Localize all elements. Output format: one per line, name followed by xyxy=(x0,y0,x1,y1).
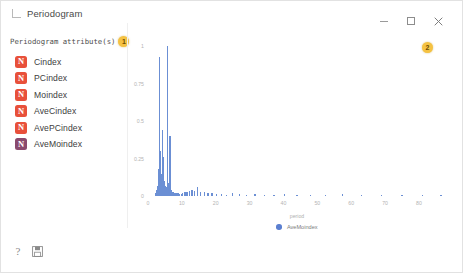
chart-bar xyxy=(310,195,311,196)
x-axis-tick-label: 20 xyxy=(213,200,219,206)
chart-bar xyxy=(167,46,168,196)
chart-bar xyxy=(221,194,222,196)
numeric-attribute-icon: N xyxy=(15,122,27,134)
x-axis-title: period xyxy=(148,213,446,219)
save-disk-icon[interactable] xyxy=(31,245,43,258)
window-corner-icon xyxy=(12,9,21,18)
chart-bar xyxy=(197,187,198,196)
numeric-attribute-icon: N xyxy=(15,105,27,117)
x-axis-tick-label: 60 xyxy=(348,200,354,206)
plot-inner: 00.250.50.75101020304050607080 xyxy=(148,46,446,196)
chart-bar xyxy=(191,190,192,196)
legend-marker-icon xyxy=(276,224,282,230)
x-axis-tick-label: 10 xyxy=(179,200,185,206)
chart-bar xyxy=(254,194,255,196)
list-item-label: Moindex xyxy=(34,90,67,100)
chart-bar xyxy=(401,195,402,196)
chart-bar xyxy=(273,195,274,197)
minimize-button[interactable] xyxy=(373,13,395,29)
periodogram-chart: 00.250.50.75101020304050607080 period Av… xyxy=(128,29,463,236)
numeric-attribute-icon: N xyxy=(15,138,27,150)
x-axis-tick-label: 50 xyxy=(314,200,320,206)
chart-bar xyxy=(189,191,190,196)
list-item-selected[interactable]: N AveMoindex xyxy=(15,138,82,151)
chart-bar xyxy=(211,193,212,196)
minimize-icon xyxy=(380,21,388,22)
title-group: Periodogram xyxy=(12,8,83,19)
list-item-label: PCindex xyxy=(34,73,67,83)
legend-label: AveMoindex xyxy=(287,224,318,230)
maximize-button[interactable] xyxy=(400,13,422,29)
numeric-attribute-icon: N xyxy=(15,89,27,101)
chart-bar xyxy=(325,195,326,196)
chart-bar xyxy=(284,194,285,196)
window-title: Periodogram xyxy=(27,8,83,19)
list-item-label: Cindex xyxy=(34,57,61,67)
x-axis-tick-label: 30 xyxy=(247,200,253,206)
y-axis-tick-label: 0.75 xyxy=(134,81,144,87)
list-item[interactable]: N AvePCindex xyxy=(15,121,82,134)
attribute-panel-header: Periodogram attribute(s) 1 xyxy=(10,36,129,47)
y-axis-tick-label: 1 xyxy=(141,43,144,49)
close-icon xyxy=(434,17,443,26)
chart-bar xyxy=(342,194,343,196)
x-axis-tick-label: 0 xyxy=(147,200,150,206)
chart-bar xyxy=(381,195,382,196)
y-axis-tick-label: 0.25 xyxy=(134,156,144,162)
help-question-icon[interactable]: ? xyxy=(12,245,24,258)
title-bar: Periodogram xyxy=(1,1,463,29)
x-axis-tick-label: 40 xyxy=(281,200,287,206)
chart-bar xyxy=(440,195,441,196)
y-axis-tick-label: 0 xyxy=(141,193,144,199)
list-item[interactable]: N Cindex xyxy=(15,55,82,68)
plot-area: 00.250.50.75101020304050607080 xyxy=(148,46,446,196)
numeric-attribute-icon: N xyxy=(15,56,27,68)
y-axis-tick-label: 0.5 xyxy=(137,118,144,124)
chart-bar xyxy=(200,192,201,197)
attribute-panel-label: Periodogram attribute(s) xyxy=(10,37,115,46)
maximize-icon xyxy=(407,17,415,25)
chart-bar xyxy=(246,195,247,197)
chart-bar xyxy=(216,194,217,196)
list-item-label: AveCindex xyxy=(34,106,76,116)
chart-bar xyxy=(204,192,205,196)
list-item[interactable]: N AveCindex xyxy=(15,105,82,118)
chart-bar xyxy=(207,193,208,196)
chart-bar xyxy=(182,193,183,196)
x-axis-tick-label: 80 xyxy=(416,200,422,206)
footer-bar: ? xyxy=(1,237,463,273)
numeric-attribute-icon: N xyxy=(15,72,27,84)
periodogram-window: Periodogram Periodogram attribute(s) 1 N… xyxy=(0,0,463,273)
attribute-panel: Periodogram attribute(s) 1 N Cindex N PC… xyxy=(1,29,127,236)
chart-legend: AveMoindex xyxy=(148,224,446,230)
chart-bar xyxy=(186,192,187,197)
chart-bar xyxy=(296,195,297,196)
list-item[interactable]: N PCindex xyxy=(15,72,82,85)
close-button[interactable] xyxy=(427,13,449,29)
attribute-list: N Cindex N PCindex N Moindex N AveCindex… xyxy=(15,55,82,151)
chart-bar xyxy=(422,195,423,196)
chart-bar xyxy=(361,195,362,196)
list-item-label: AveMoindex xyxy=(34,139,82,149)
chart-bar xyxy=(184,192,185,196)
list-item-label: AvePCindex xyxy=(34,123,82,133)
chart-bar xyxy=(226,195,227,197)
list-item[interactable]: N Moindex xyxy=(15,88,82,101)
chart-bar xyxy=(264,195,265,196)
chart-bar xyxy=(194,191,195,196)
x-axis-tick-label: 70 xyxy=(382,200,388,206)
chart-bar xyxy=(232,193,233,196)
chart-bar xyxy=(239,194,240,196)
footer-icon-group: ? xyxy=(12,245,43,258)
